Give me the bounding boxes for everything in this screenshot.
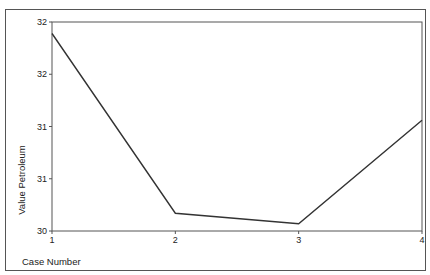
y-axis-title: Value Petroleum: [16, 145, 27, 215]
x-axis-title: Case Number: [22, 256, 81, 267]
y-tick-label: 31: [37, 122, 47, 132]
y-tick-label: 32: [37, 69, 47, 79]
y-tick-label: 31: [37, 174, 47, 184]
plot-area: [52, 22, 422, 231]
line-chart: 3031313232 1234 Case Number Value Petrol…: [0, 0, 430, 275]
x-tick-label: 2: [173, 235, 178, 245]
x-tick-label: 3: [296, 235, 301, 245]
y-tick-label: 30: [37, 226, 47, 236]
x-tick-label: 1: [49, 235, 54, 245]
y-tick-label: 32: [37, 17, 47, 27]
x-tick-label: 4: [419, 235, 424, 245]
series-line: [52, 33, 422, 223]
